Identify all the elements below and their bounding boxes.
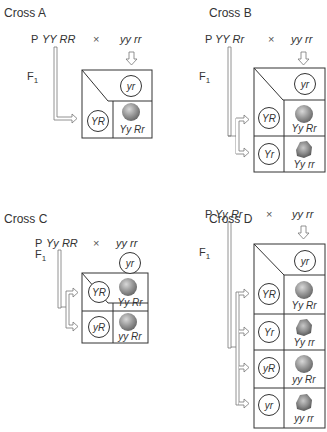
cross-b-offspring-1: Yy Rr (287, 123, 321, 134)
cross-b-down-arrow (298, 52, 309, 65)
cross-b-pea-round (295, 105, 313, 123)
cross-a-parent2: yy rr (120, 33, 141, 45)
cross-c-f1-label: F1 (35, 248, 46, 263)
cross-d-pea-wrinkled-1 (296, 319, 312, 336)
cross-d-row-gamete-4: yr (258, 394, 280, 416)
cross-d-pea-round-2 (295, 355, 313, 373)
cross-d-offspring-2: Yy rr (287, 337, 321, 348)
cross-d-column-gamete: yr (294, 250, 316, 272)
cross-a-row-gamete-1: YR (87, 110, 109, 132)
cross-d-down-arrow (298, 226, 309, 239)
cross-c-column-gamete: yr (119, 252, 141, 274)
cross-b-pea-wrinkled (296, 141, 312, 158)
cross-b-p-label: P (205, 33, 212, 45)
cross-b-parent-arrows (228, 47, 249, 157)
cross-c-title: Cross C (4, 212, 47, 226)
cross-c-row-gamete-1: YR (88, 281, 110, 303)
cross-c-times: × (93, 237, 99, 249)
cross-a-down-arrow (126, 52, 137, 65)
cross-d-row-gamete-3: yR (258, 357, 280, 379)
cross-c-offspring-2: yy Rr (113, 331, 147, 342)
cross-d-f1-label: F1 (199, 246, 210, 261)
cross-d-parent-arrows (228, 222, 249, 408)
cross-a-times: × (93, 33, 99, 45)
cross-d-pea-wrinkled-2 (296, 394, 312, 411)
cross-d-row-gamete-1: YR (258, 283, 280, 305)
cross-d-offspring-1: Yy Rr (287, 300, 321, 311)
cross-b-row-gamete-2: Yr (258, 143, 280, 165)
cross-c-row-gamete-2: yR (88, 316, 110, 338)
cross-c-pea-round-1 (119, 278, 137, 296)
cross-a-parent1: YY RR (42, 33, 75, 45)
cross-b-column-gamete: yr (294, 73, 316, 95)
cross-a-parent-arrow (54, 47, 77, 123)
cross-a-title: Cross A (4, 6, 46, 20)
cross-b-parent2: yy rr (291, 33, 312, 45)
cross-b-offspring-2: Yy rr (287, 159, 321, 170)
cross-c-pea-round-2 (119, 313, 137, 331)
cross-b-times: × (268, 33, 274, 45)
cross-d-times: × (266, 208, 272, 220)
cross-c-offspring-1: Yy Rr (113, 297, 147, 308)
cross-c-parent2: yy rr (116, 237, 137, 249)
cross-d-parent2: yy rr (292, 208, 313, 220)
cross-a-column-gamete: yr (120, 75, 142, 97)
cross-d-row-gamete-2: Yr (258, 321, 280, 343)
cross-d-parent1: Yy Rr (215, 208, 243, 220)
cross-d-offspring-3: yy Rr (287, 374, 321, 385)
cross-b-row-gamete-1: YR (258, 107, 280, 129)
cross-d-offspring-4: yy rr (287, 413, 321, 424)
cross-a-p-label: P (31, 33, 38, 45)
cross-a-pea-round (122, 103, 140, 121)
cross-d-pea-round-1 (295, 281, 313, 299)
cross-b-f1-label: F1 (199, 70, 210, 85)
cross-c-parent-arrows (58, 250, 78, 331)
cross-b-title: Cross B (209, 6, 252, 20)
cross-c-parent1: Yy RR (46, 237, 78, 249)
cross-d-p-label: P (205, 208, 212, 220)
cross-b-parent1: YY Rr (215, 33, 244, 45)
cross-a-offspring-1: Yy Rr (115, 124, 149, 135)
cross-a-f1-label: F1 (27, 70, 38, 85)
